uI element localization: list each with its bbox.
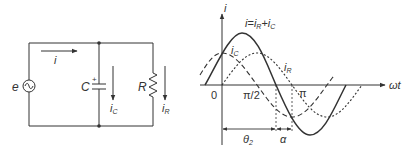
- sine-glyph: [25, 83, 33, 88]
- source-label: e: [12, 80, 19, 94]
- parallel-rc-circuit-figure: e i C + iC R iR i ωt i=iR+iC iC iR 0 π/2…: [0, 0, 408, 153]
- node-top: [97, 41, 101, 45]
- resistor-label: R: [138, 80, 147, 94]
- origin-label: 0: [211, 89, 217, 101]
- equation-label: i=iR+iC: [245, 17, 276, 30]
- pi-label: π: [299, 87, 307, 99]
- theta2-label: θ2: [243, 133, 253, 146]
- ir-curve-label: iR: [284, 61, 292, 74]
- x-axis-label: ωt: [389, 79, 402, 91]
- half-pi-label: π/2: [243, 89, 260, 101]
- ir-label: iR: [162, 102, 170, 115]
- resistor-icon: [149, 73, 157, 97]
- ic-label: iC: [110, 102, 118, 115]
- ic-curve-label: iC: [231, 44, 239, 57]
- waveform-plot: [200, 14, 385, 145]
- y-axis-label: i: [224, 2, 227, 14]
- alpha-label: α: [280, 133, 287, 145]
- capacitor-label: C: [81, 80, 90, 94]
- current-i-label: i: [54, 54, 57, 66]
- node-bottom: [97, 124, 101, 128]
- capacitor-polarity: +: [92, 75, 97, 84]
- i-total-curve: [205, 33, 346, 135]
